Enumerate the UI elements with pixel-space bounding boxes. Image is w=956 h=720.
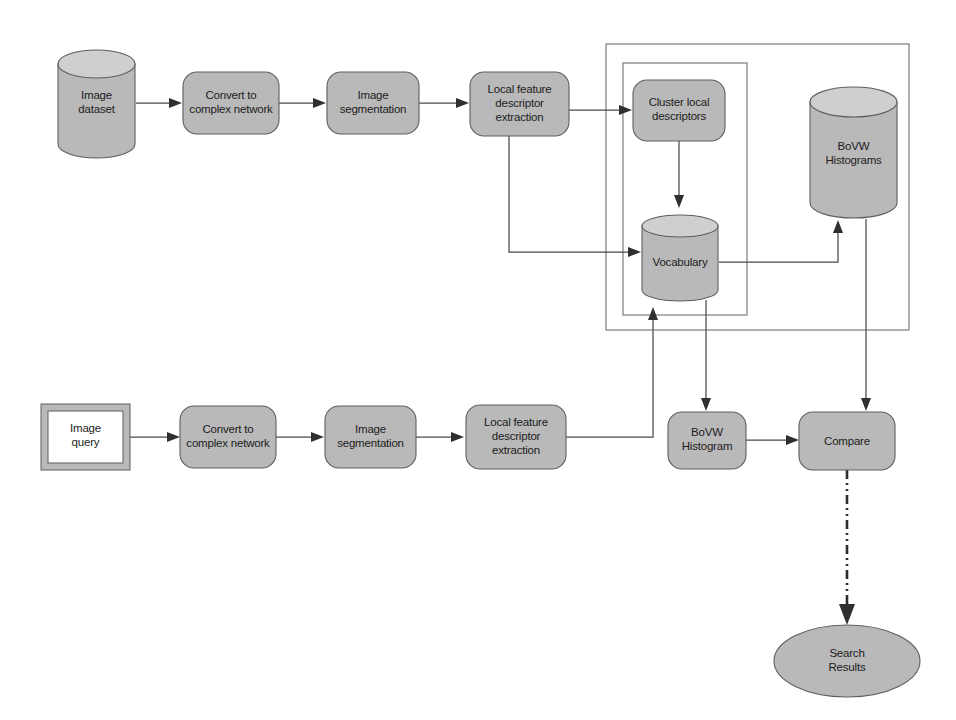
flowchart-svg: Image dataset Convert to complex network…	[0, 0, 956, 720]
edge-dataset-to-convert-top	[136, 98, 182, 108]
local-feature-bottom-label-line1: Local feature	[484, 416, 548, 428]
local-feature-bottom-label-line3: extraction	[492, 444, 540, 456]
node-local-feature-extraction-top[interactable]: Local feature descriptor extraction	[470, 72, 569, 136]
flowchart-canvas: Image dataset Convert to complex network…	[0, 0, 956, 720]
edge-compare-to-search-results	[839, 470, 855, 625]
node-convert-to-complex-network-bottom[interactable]: Convert to complex network	[180, 406, 276, 468]
image-query-label-line1: Image	[70, 422, 101, 434]
bovw-histogram-label-line2: Histogram	[682, 440, 733, 452]
node-image-segmentation-top[interactable]: Image segmentation	[327, 72, 419, 134]
convert-bottom-label-line1: Convert to	[202, 423, 253, 435]
node-image-query[interactable]: Image query	[41, 404, 130, 470]
bovw-histograms-label-line2: Histograms	[825, 154, 882, 166]
local-feature-top-label-line1: Local feature	[488, 83, 552, 95]
local-feature-bottom-label-line2: descriptor	[492, 430, 541, 442]
edge-bovw-histogram-to-compare	[746, 435, 799, 445]
edge-vocabulary-to-bovw-histogram	[701, 300, 711, 411]
edge-local-feature-bottom-to-vocabulary	[566, 307, 658, 437]
segmentation-bottom-label-line2: segmentation	[337, 437, 404, 449]
edge-local-feature-top-to-cluster-local	[569, 105, 632, 115]
edge-vocabulary-to-bovw-histograms	[719, 220, 843, 262]
image-dataset-label-line2: dataset	[78, 103, 115, 115]
local-feature-top-label-line2: descriptor	[495, 97, 544, 109]
node-bovw-histogram-query[interactable]: BoVW Histogram	[668, 412, 746, 469]
local-feature-top-label-line3: extraction	[496, 111, 544, 123]
segmentation-top-label-line2: segmentation	[340, 103, 407, 115]
node-bovw-histograms[interactable]: BoVW Histograms	[810, 87, 897, 218]
edge-local-feature-top-to-vocabulary	[509, 136, 641, 257]
edge-bovw-histograms-to-compare	[861, 219, 871, 411]
node-convert-to-complex-network-top[interactable]: Convert to complex network	[183, 72, 279, 134]
convert-top-label-line1: Convert to	[205, 89, 256, 101]
node-cluster-local-descriptors[interactable]: Cluster local descriptors	[633, 80, 725, 141]
edge-query-to-convert-bottom	[130, 432, 180, 442]
edge-convert-top-to-segmentation-top	[279, 98, 326, 108]
bovw-histogram-label-line1: BoVW	[691, 426, 723, 438]
vocabulary-label: Vocabulary	[653, 256, 708, 268]
convert-bottom-label-line2: complex network	[186, 437, 270, 449]
cluster-local-label-line1: Cluster local	[649, 96, 710, 108]
segmentation-top-label-line1: Image	[358, 89, 389, 101]
node-search-results[interactable]: Search Results	[774, 625, 920, 697]
node-vocabulary[interactable]: Vocabulary	[642, 215, 718, 301]
node-image-dataset[interactable]: Image dataset	[58, 50, 135, 158]
node-compare[interactable]: Compare	[799, 412, 895, 470]
search-results-label-line1: Search	[829, 647, 864, 659]
node-local-feature-extraction-bottom[interactable]: Local feature descriptor extraction	[466, 405, 566, 469]
compare-label: Compare	[824, 435, 870, 447]
image-query-label-line2: query	[72, 436, 100, 448]
bovw-histograms-label-line1: BoVW	[838, 140, 870, 152]
edge-segmentation-top-to-local-feature-top	[419, 98, 469, 108]
segmentation-bottom-label-line1: Image	[355, 423, 386, 435]
node-image-segmentation-bottom[interactable]: Image segmentation	[325, 406, 416, 468]
edge-convert-bottom-to-segmentation-bottom	[276, 432, 324, 442]
edge-cluster-local-to-vocabulary	[674, 141, 684, 208]
edge-segmentation-bottom-to-local-feature-bottom	[416, 432, 464, 442]
image-dataset-label-line1: Image	[81, 89, 112, 101]
cluster-local-label-line2: descriptors	[652, 110, 706, 122]
search-results-label-line2: Results	[829, 661, 866, 673]
convert-top-label-line2: complex network	[189, 103, 273, 115]
